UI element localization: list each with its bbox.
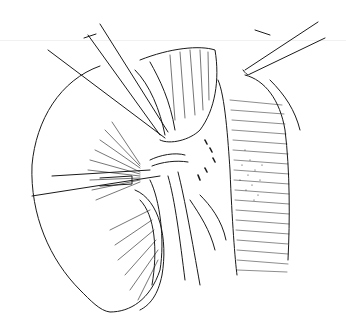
retractor-top-right	[245, 22, 318, 70]
vessel-hatching	[230, 100, 289, 272]
surgical-illustration	[0, 0, 346, 332]
probe	[48, 50, 165, 138]
vessel-left-edge	[218, 80, 237, 275]
forceps-top-left	[88, 35, 160, 135]
line-art	[0, 0, 346, 332]
stipple	[239, 149, 262, 200]
suture-marks	[198, 140, 215, 180]
